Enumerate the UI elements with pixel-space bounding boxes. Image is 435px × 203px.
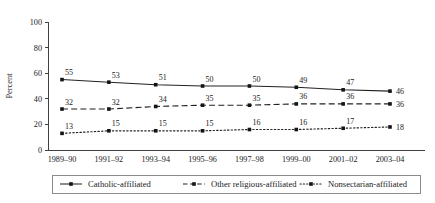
x-tick-label: 1999–00 [282, 155, 311, 164]
legend-label-0: Catholic-affiliated [88, 179, 152, 189]
data-point-label: 32 [65, 98, 73, 107]
data-point-label: 36 [346, 92, 354, 101]
data-point-label: 15 [206, 119, 214, 128]
data-point-label: 16 [299, 118, 307, 127]
y-axis: 020406080100Percent [5, 18, 48, 155]
data-point-label: 32 [112, 98, 120, 107]
data-point-label: 50 [206, 75, 214, 84]
data-point-marker [388, 125, 392, 129]
data-point-label: 49 [299, 76, 307, 85]
data-point-marker [154, 105, 158, 109]
x-tick-label: 1993–94 [141, 155, 170, 164]
data-point-label: 34 [159, 95, 167, 104]
data-point-marker [248, 128, 252, 132]
chart-legend: Catholic-affiliatedOther religious-affil… [52, 175, 420, 193]
legend-label-1: Other religious-affiliated [211, 179, 297, 189]
data-point-label: 35 [206, 94, 214, 103]
data-point-marker [154, 129, 158, 133]
data-point-marker [201, 84, 205, 88]
data-point-label: 13 [65, 122, 73, 131]
legend-marker-0 [69, 182, 73, 186]
data-point-marker [201, 129, 205, 133]
data-point-marker [248, 103, 252, 107]
y-tick-label: 80 [34, 44, 42, 53]
data-series-group [60, 78, 392, 135]
line-chart: 020406080100Percent 1989–901991–921993–9… [0, 0, 435, 203]
x-tick-label: 2001–02 [329, 155, 358, 164]
y-tick-label: 40 [34, 95, 42, 104]
y-tick-label: 0 [38, 146, 42, 155]
data-point-marker [154, 83, 158, 87]
chart-figure: 020406080100Percent 1989–901991–921993–9… [0, 0, 435, 203]
data-point-marker [341, 102, 345, 106]
x-axis: 1989–901991–921993–941995–961997–981999–… [48, 150, 425, 164]
data-point-marker [107, 80, 111, 84]
data-point-marker [341, 126, 345, 130]
data-point-marker [341, 88, 345, 92]
data-point-label: 35 [252, 94, 260, 103]
x-tick-label: 1989–90 [48, 155, 77, 164]
y-tick-label: 100 [30, 18, 42, 27]
x-tick-label: 1997–98 [235, 155, 264, 164]
data-point-label: 53 [112, 71, 120, 80]
data-point-marker [201, 103, 205, 107]
data-point-label: 16 [252, 118, 260, 127]
data-point-marker [388, 89, 392, 93]
data-point-label: 51 [159, 73, 167, 82]
data-point-label: 18 [396, 123, 404, 132]
y-tick-label: 20 [34, 120, 42, 129]
data-point-marker [294, 128, 298, 132]
data-point-label: 47 [346, 78, 354, 87]
x-tick-label: 2003–04 [376, 155, 405, 164]
y-tick-label: 60 [34, 69, 42, 78]
data-point-marker [294, 102, 298, 106]
data-point-label: 17 [346, 117, 354, 126]
data-point-label: 36 [396, 100, 404, 109]
data-point-marker [294, 85, 298, 89]
data-point-marker [388, 102, 392, 106]
y-axis-title: Percent [5, 73, 14, 99]
legend-marker-2 [309, 182, 313, 186]
data-point-marker [107, 107, 111, 111]
data-point-marker [60, 132, 64, 136]
series-line-0 [62, 80, 390, 92]
legend-marker-1 [192, 182, 196, 186]
data-point-label: 55 [65, 68, 73, 77]
data-labels-group: 5553515050494746323234353536363613151515… [65, 68, 404, 132]
data-point-label: 15 [159, 119, 167, 128]
data-point-marker [60, 78, 64, 82]
data-point-marker [107, 129, 111, 133]
x-tick-label: 1995–96 [188, 155, 217, 164]
data-point-label: 50 [252, 75, 260, 84]
data-point-marker [60, 107, 64, 111]
data-point-label: 46 [396, 87, 404, 96]
legend-label-2: Nonsectarian-affiliated [328, 179, 408, 189]
x-tick-label: 1991–92 [95, 155, 124, 164]
data-point-marker [248, 84, 252, 88]
data-point-label: 36 [299, 92, 307, 101]
data-point-label: 15 [112, 119, 120, 128]
